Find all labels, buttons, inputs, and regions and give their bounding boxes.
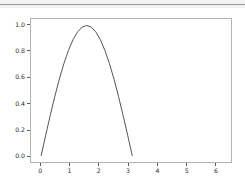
x-tick-mark	[69, 163, 70, 166]
y-tick-label: 0.6	[15, 74, 25, 80]
x-tick-label: 3	[121, 167, 135, 174]
x-tick-mark	[128, 163, 129, 166]
window-toolbar-band	[0, 0, 245, 8]
x-tick-label: 2	[92, 167, 106, 174]
x-tick-mark	[157, 163, 158, 166]
y-tick-mark	[27, 77, 30, 78]
chart-figure: 0.00.20.40.60.81.0 0123456	[0, 8, 245, 179]
y-tick-label: 0.4	[15, 101, 25, 107]
y-tick-mark	[27, 130, 30, 131]
y-tick-label: 0.0	[15, 153, 25, 159]
x-tick-mark	[40, 163, 41, 166]
y-tick-mark	[27, 103, 30, 104]
x-tick-mark	[215, 163, 216, 166]
x-tick-label: 1	[63, 167, 77, 174]
x-tick-mark	[186, 163, 187, 166]
y-tick-label: 1.0	[15, 22, 25, 28]
x-tick-label: 0	[33, 167, 47, 174]
sine-curve	[31, 19, 231, 162]
x-tick-label: 4	[150, 167, 164, 174]
x-tick-label: 6	[209, 167, 223, 174]
toolbar-divider-rule	[0, 4, 245, 5]
x-tick-label: 5	[180, 167, 194, 174]
y-tick-mark	[27, 24, 30, 25]
y-tick-mark	[27, 156, 30, 157]
y-tick-label: 0.8	[15, 48, 25, 54]
y-tick-label: 0.2	[15, 127, 25, 133]
plot-area	[30, 18, 232, 163]
y-tick-mark	[27, 50, 30, 51]
x-tick-mark	[98, 163, 99, 166]
